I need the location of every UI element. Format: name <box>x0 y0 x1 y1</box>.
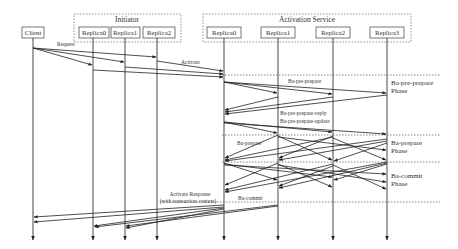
pre-prepare-phase-label: Ba-pre-prepare <box>391 79 433 87</box>
participant-initiator-replica0: Replica0 <box>79 27 109 38</box>
participant-initiator-replica2: Replica2 <box>143 27 175 38</box>
ba-commit-messages: Ba-commit <box>224 162 387 201</box>
phase-labels: Ba-pre-prepare Phase Ba-prepare Phase Ba… <box>391 79 433 188</box>
participant-label: Replica2 <box>147 29 172 36</box>
pre-prepare-phase-label-2: Phase <box>391 87 407 95</box>
participant-label: Replica0 <box>212 29 237 36</box>
request-messages: Request <box>33 41 156 65</box>
activate-response-label: Activate Response <box>169 191 211 197</box>
ba-prepare-messages: Ba-prepare <box>225 135 387 161</box>
sequence-diagram: Initiator Activation Service Client Repl… <box>0 0 458 249</box>
activate-label: Activate <box>181 59 200 65</box>
ba-prepare-label: Ba-prepare <box>237 140 262 146</box>
commit-phase-label: Ba-commit <box>391 172 423 180</box>
participant-activation-replica3: Replica3 <box>370 27 404 38</box>
initiator-title: Initiator <box>115 15 140 24</box>
ba-pre-prepare-reply-label: Ba-pre-prepare-reply <box>280 110 327 116</box>
participant-label: Replica1 <box>113 29 137 36</box>
participant-label: Replica2 <box>321 29 346 36</box>
activation-service-title: Activation Service <box>279 15 336 24</box>
participant-client: Client <box>22 27 44 38</box>
ba-pre-prepare-update-label: Ba-pre-prepare-update <box>280 118 330 124</box>
ba-pre-prepare-label: Ba-pre-prepare <box>288 78 322 84</box>
ba-commit-label: Ba-commit <box>238 195 263 201</box>
prepare-phase-label: Ba-prepare <box>391 139 422 147</box>
activate-response-label-2: (with transaction context) <box>160 198 217 205</box>
participant-label: Client <box>25 29 42 36</box>
participant-activation-replica0: Replica0 <box>207 27 241 38</box>
participant-label: Replica1 <box>266 29 290 36</box>
ba-pre-prepare-reply-messages: Ba-pre-prepare-reply Ba-pre-prepare-upda… <box>225 95 387 124</box>
participant-activation-replica2: Replica2 <box>316 27 350 38</box>
prepare-phase-label-2: Phase <box>391 147 407 155</box>
activate-messages: Activate <box>93 59 223 77</box>
participant-activation-replica1: Replica1 <box>261 27 295 38</box>
participant-label: Replica3 <box>375 29 400 36</box>
commit-phase-label-2: Phase <box>391 180 407 188</box>
ba-pre-prepare-messages: Ba-pre-prepare <box>224 78 386 94</box>
participant-initiator-replica1: Replica1 <box>111 27 140 38</box>
request-label: Request <box>57 41 75 47</box>
participant-label: Replica0 <box>82 29 107 36</box>
